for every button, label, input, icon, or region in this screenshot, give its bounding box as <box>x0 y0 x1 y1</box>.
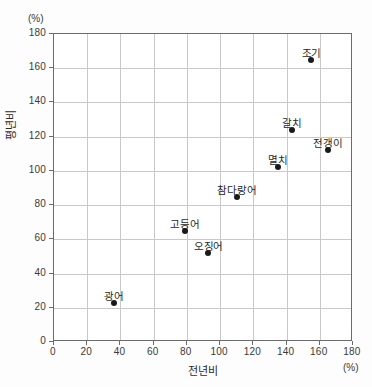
x-axis-tick-label: 140 <box>271 346 301 357</box>
y-axis-unit: (%) <box>28 13 44 24</box>
gridline-horizontal <box>54 171 351 172</box>
x-axis-tick <box>86 341 87 345</box>
data-point-label: 전갱이 <box>313 135 343 150</box>
y-axis-tick-label: 60 <box>18 232 46 243</box>
x-axis-tick-label: 80 <box>171 346 201 357</box>
scatter-chart-figure: (%) 광어고등어오징어참다랑어멸치갈치전갱이조기 02040608010012… <box>0 0 372 387</box>
x-axis-tick-label: 180 <box>337 346 367 357</box>
y-axis-tick-label: 100 <box>18 164 46 175</box>
x-axis-tick <box>119 341 120 345</box>
x-axis-tick-label: 0 <box>38 346 68 357</box>
gridline-horizontal <box>54 274 351 275</box>
y-axis-tick-label: 20 <box>18 301 46 312</box>
x-axis-tick <box>186 341 187 345</box>
gridline-horizontal <box>54 137 351 138</box>
gridline-vertical <box>154 34 155 340</box>
gridline-horizontal <box>54 205 351 206</box>
y-axis-tick <box>49 238 53 239</box>
y-axis-tick <box>49 170 53 171</box>
data-point-label: 오징어 <box>194 238 224 253</box>
x-axis-tick <box>53 341 54 345</box>
gridline-horizontal <box>54 68 351 69</box>
data-point-label: 참다랑어 <box>217 182 257 197</box>
x-axis-tick <box>219 341 220 345</box>
x-axis-tick <box>153 341 154 345</box>
y-axis-tick <box>49 341 53 342</box>
y-axis-tick-label: 80 <box>18 198 46 209</box>
x-axis-title: 전년비 <box>53 362 352 378</box>
x-axis-tick-label: 40 <box>104 346 134 357</box>
x-axis-tick-label: 20 <box>71 346 101 357</box>
gridline-vertical <box>87 34 88 340</box>
data-point-label: 조기 <box>302 45 322 60</box>
gridline-horizontal <box>54 102 351 103</box>
gridline-vertical <box>320 34 321 340</box>
gridline-vertical <box>287 34 288 340</box>
y-axis-tick-label: 160 <box>18 61 46 72</box>
x-axis-tick-label: 60 <box>138 346 168 357</box>
gridline-horizontal <box>54 308 351 309</box>
y-axis-tick-label: 180 <box>18 27 46 38</box>
data-point-label: 멸치 <box>268 152 288 167</box>
y-axis-tick <box>49 101 53 102</box>
y-axis-title: 평년비 <box>2 95 18 155</box>
y-axis-tick <box>49 67 53 68</box>
data-point-label: 갈치 <box>282 115 302 130</box>
y-axis-tick-label: 140 <box>18 95 46 106</box>
x-axis-tick <box>319 341 320 345</box>
plot-area: 광어고등어오징어참다랑어멸치갈치전갱이조기 <box>53 33 352 341</box>
data-point-label: 고등어 <box>170 216 200 231</box>
y-axis-tick-label: 40 <box>18 267 46 278</box>
y-axis-tick-label: 120 <box>18 130 46 141</box>
x-axis-tick-label: 120 <box>237 346 267 357</box>
x-axis-tick <box>252 341 253 345</box>
x-axis-tick-label: 100 <box>204 346 234 357</box>
x-axis-tick-label: 160 <box>304 346 334 357</box>
y-axis-tick <box>49 204 53 205</box>
y-axis-tick <box>49 33 53 34</box>
x-axis-unit: (%) <box>343 362 359 373</box>
x-axis-tick <box>286 341 287 345</box>
y-axis-tick-label: 0 <box>18 335 46 346</box>
y-axis-tick <box>49 273 53 274</box>
x-axis-tick <box>352 341 353 345</box>
y-axis-tick <box>49 136 53 137</box>
y-axis-tick <box>49 307 53 308</box>
data-point-label: 광어 <box>104 288 124 303</box>
gridline-vertical <box>187 34 188 340</box>
